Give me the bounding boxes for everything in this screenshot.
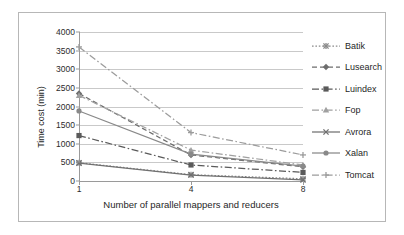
data-point-diamond-marker: [323, 64, 329, 70]
series-tomcat: [76, 44, 306, 158]
y-axis-tick-mark: [76, 69, 80, 70]
legend-label: Avrora: [345, 127, 371, 137]
y-axis-tick-mark: [76, 87, 80, 88]
data-point-circle-marker: [188, 152, 193, 157]
legend-item-luindex[interactable]: Luindex: [311, 78, 403, 100]
legend-item-batik[interactable]: Batik: [311, 35, 403, 57]
data-point-square-marker: [188, 162, 193, 167]
legend-swatch-triangle-icon: [311, 104, 341, 116]
y-axis-tick-mark: [76, 143, 80, 144]
x-axis-tick-label: 4: [189, 185, 194, 194]
y-axis-tick-mark: [76, 50, 80, 51]
x-axis-label: Number of parallel mappers and reducers: [79, 199, 303, 210]
data-point-plus-marker: [323, 172, 329, 178]
series-xalan: [76, 108, 305, 168]
data-point-asterisk-marker: [323, 43, 329, 49]
plot-area: 05001000150020002500300035004000148: [79, 32, 303, 181]
chart-legend: BatikLusearchLuindexFopAvroraXalanTomcat: [311, 35, 403, 186]
legend-item-tomcat[interactable]: Tomcat: [311, 164, 403, 186]
data-point-square-marker: [323, 86, 328, 91]
x-axis-tick-label: 1: [77, 185, 82, 194]
x-axis-tick-mark: [79, 181, 80, 185]
legend-label: Tomcat: [345, 170, 374, 180]
data-point-circle-marker: [76, 108, 81, 113]
legend-swatch-diamond-icon: [311, 61, 341, 73]
y-axis-label: Time cost (min): [36, 86, 46, 148]
y-axis-tick-mark: [76, 162, 80, 163]
series-line: [79, 47, 303, 155]
data-point-circle-marker: [300, 164, 305, 169]
y-axis-tick-label: 2000: [56, 102, 75, 111]
series-container: [79, 32, 303, 181]
y-axis-tick-mark: [76, 106, 80, 107]
data-point-square-marker: [300, 170, 305, 175]
data-point-circle-marker: [323, 151, 328, 156]
legend-swatch-asterisk-icon: [311, 40, 341, 52]
y-axis-tick-label: 1000: [56, 140, 75, 149]
y-axis-tick-label: 4000: [56, 28, 75, 37]
legend-label: Lusearch: [345, 62, 382, 72]
legend-item-fop[interactable]: Fop: [311, 100, 403, 122]
legend-label: Batik: [345, 41, 365, 51]
data-point-plus-marker: [300, 152, 306, 158]
legend-label: Xalan: [345, 148, 368, 158]
y-axis-tick-label: 500: [61, 158, 75, 167]
x-axis-tick-mark: [303, 181, 304, 185]
chart-frame: Time cost (min) 050010001500200025003000…: [18, 12, 386, 222]
x-axis-tick-label: 8: [301, 185, 306, 194]
legend-swatch-square-icon: [311, 83, 341, 95]
y-axis-tick-label: 2500: [56, 84, 75, 93]
x-axis-tick-mark: [191, 181, 192, 185]
y-axis-tick-label: 3000: [56, 65, 75, 74]
y-axis-tick-mark: [76, 125, 80, 126]
legend-swatch-plus-icon: [311, 169, 341, 181]
legend-label: Luindex: [345, 84, 377, 94]
legend-swatch-x-icon: [311, 126, 341, 138]
y-axis-tick-label: 0: [70, 177, 75, 186]
legend-item-xalan[interactable]: Xalan: [311, 143, 403, 165]
data-point-square-marker: [76, 133, 81, 138]
y-axis-tick-mark: [76, 32, 80, 33]
y-axis-tick-label: 3500: [56, 46, 75, 55]
legend-label: Fop: [345, 105, 361, 115]
legend-item-avrora[interactable]: Avrora: [311, 121, 403, 143]
legend-swatch-circle-icon: [311, 147, 341, 159]
legend-item-lusearch[interactable]: Lusearch: [311, 57, 403, 79]
y-axis-tick-label: 1500: [56, 121, 75, 130]
